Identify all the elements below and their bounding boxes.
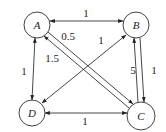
weight-a-b: 1 bbox=[83, 7, 89, 19]
weight-a-d: 1 bbox=[21, 65, 27, 77]
weighted-directed-graph: A B C D 1 1 1 1 0.5 1.5 5 1 bbox=[0, 0, 166, 132]
node-c: C bbox=[127, 102, 155, 130]
edge-c-to-a bbox=[44, 36, 129, 108]
node-a: A bbox=[24, 12, 50, 38]
node-d-label: D bbox=[27, 107, 36, 119]
weight-d-c: 1 bbox=[82, 115, 88, 127]
node-b: B bbox=[123, 12, 149, 38]
graph-canvas: A B C D 1 1 1 1 0.5 1.5 5 1 bbox=[0, 0, 166, 132]
node-c-label: C bbox=[137, 110, 145, 122]
weight-a-to-c: 0.5 bbox=[61, 30, 75, 42]
edge-b-to-c bbox=[140, 38, 144, 102]
edge-a-to-c bbox=[48, 32, 133, 104]
edge-a-d bbox=[32, 38, 35, 100]
node-b-label: B bbox=[133, 19, 140, 31]
node-a-label: A bbox=[33, 19, 41, 31]
weight-c-to-a: 1.5 bbox=[45, 52, 59, 64]
node-d: D bbox=[19, 100, 45, 126]
weight-d-b: 1 bbox=[98, 34, 104, 46]
weight-c-to-b: 5 bbox=[130, 64, 136, 76]
weight-b-to-c: 1 bbox=[151, 64, 157, 76]
